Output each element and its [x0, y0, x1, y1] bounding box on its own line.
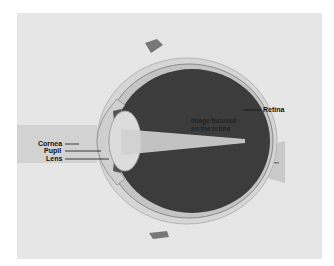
eye-diagram-panel: Cornea Pupil Lens Retina Image focused o…	[17, 13, 322, 259]
pupil-label: Pupil	[44, 147, 61, 155]
lens-label: Lens	[46, 155, 62, 163]
muscle-bottom	[149, 231, 169, 239]
eye-cross-section-illustration	[17, 13, 322, 259]
image-focused-label-line1: Image focused	[191, 117, 237, 125]
retina-label: Retina	[263, 106, 284, 114]
image-focused-label-line2: on the retina	[191, 125, 230, 133]
muscle-top	[145, 39, 163, 53]
